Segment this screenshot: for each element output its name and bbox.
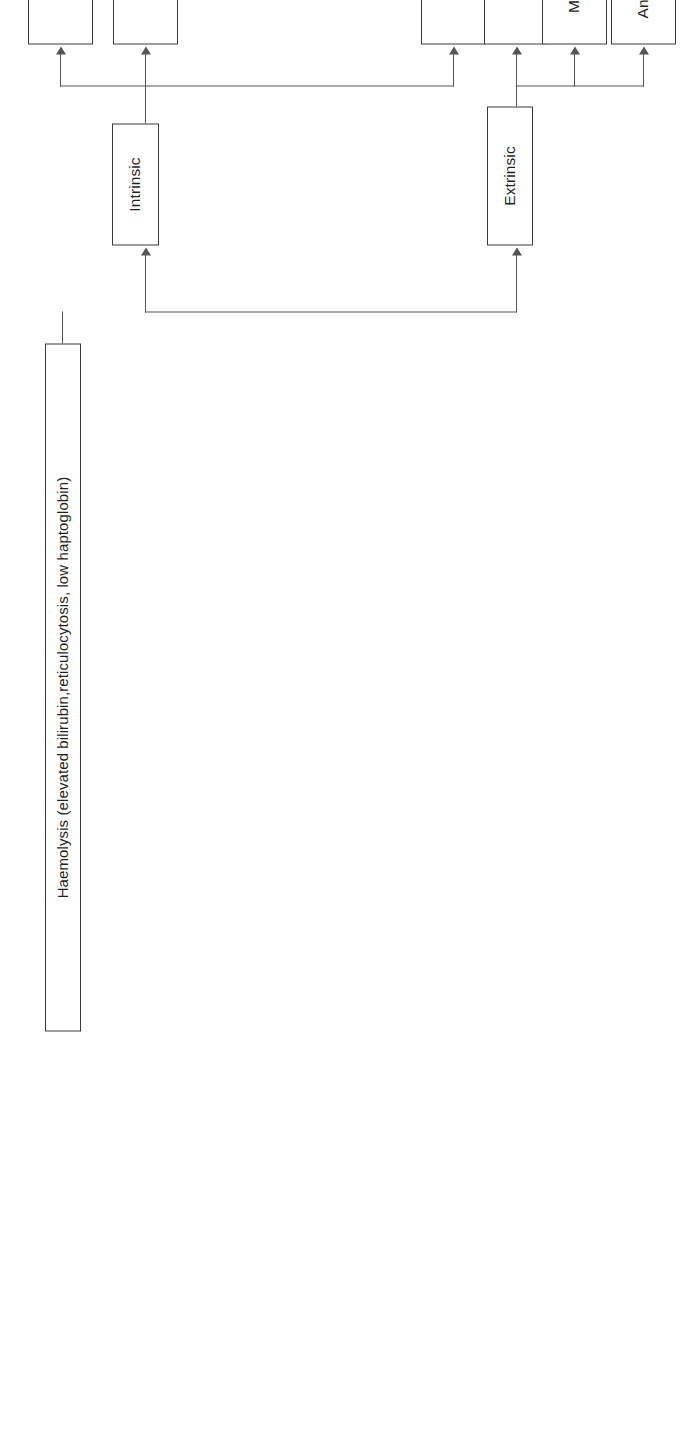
arrowhead-intrinsic-to-membrane: [449, 46, 459, 54]
connector-extrinsic-to-microangiopathic: [574, 51, 575, 86]
node-microangiopathic-label: Microangiopathic: [565, 0, 583, 12]
connector-root-to-intrinsic: [145, 252, 146, 312]
node-root-label: Haemolysis (elevated bilirubin,reticuloc…: [54, 476, 72, 898]
arrowhead-intrinsic-to-enzyme: [141, 46, 151, 54]
node-intrinsic-label: Intrinsic: [126, 157, 144, 211]
node-extrinsic-label: Extrinsic: [501, 146, 519, 205]
arrowhead-extrinsic-to-antibody-mediated: [639, 46, 649, 54]
flowchart-canvas: Haemolysis (elevated bilirubin,reticuloc…: [0, 0, 682, 1441]
node-membrane[interactable]: Membrane: [421, 0, 486, 44]
connector-intrinsic-to-membrane: [453, 51, 454, 86]
node-antibody-mediated[interactable]: Antibody mediated: [611, 0, 676, 44]
arrowhead-root-to-extrinsic: [512, 247, 522, 255]
arrowhead-extrinsic-to-microangiopathic: [570, 46, 580, 54]
connector-intrinsic-to-haemoglobin: [60, 51, 61, 86]
connector-root-to-extrinsic: [516, 252, 517, 312]
arrowhead-root-to-intrinsic: [141, 247, 151, 255]
connector-extrinsic-stem: [516, 85, 517, 106]
arrowhead-intrinsic-to-haemoglobin: [56, 46, 66, 54]
connector-root-stem: [62, 311, 63, 343]
arrowhead-extrinsic-to-infective: [512, 46, 522, 54]
node-intrinsic[interactable]: Intrinsic: [112, 123, 159, 245]
connector-extrinsic-bus: [516, 85, 644, 86]
connector-intrinsic-stem: [145, 85, 146, 123]
node-haemoglobin[interactable]: Haemoglobin: [28, 0, 93, 44]
connector-extrinsic-to-infective: [516, 51, 517, 86]
node-root-haemolysis[interactable]: Haemolysis (elevated bilirubin,reticuloc…: [45, 343, 81, 1031]
connector-intrinsic-to-enzyme: [145, 51, 146, 86]
connector-intrinsic-bus: [60, 85, 454, 86]
node-microangiopathic[interactable]: Microangiopathic: [542, 0, 607, 44]
diagram-page: Haemolysis (elevated bilirubin,reticuloc…: [0, 0, 682, 1441]
node-antibody-mediated-label: Antibody mediated: [634, 0, 652, 18]
connector-root-split: [145, 311, 517, 312]
node-infective[interactable]: Infective: [484, 0, 549, 44]
node-enzyme[interactable]: Enzyme: [113, 0, 178, 44]
node-extrinsic[interactable]: Extrinsic: [487, 106, 533, 245]
connector-extrinsic-to-antibody-mediated: [643, 51, 644, 86]
